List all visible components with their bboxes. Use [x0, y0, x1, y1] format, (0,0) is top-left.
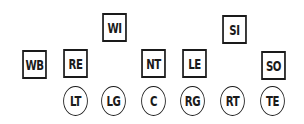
- offense-c: C: [141, 86, 166, 116]
- offense-te-label: TE: [266, 94, 279, 108]
- defender-wi-label: WI: [107, 21, 121, 35]
- offense-lt-label: LT: [70, 94, 81, 108]
- defender-si-label: SI: [229, 23, 239, 37]
- defender-le: LE: [182, 49, 207, 78]
- offense-lt: LT: [63, 86, 88, 116]
- offense-rg: RG: [180, 86, 205, 116]
- defender-re: RE: [63, 49, 88, 78]
- defender-nt: NT: [141, 49, 166, 78]
- defender-nt-label: NT: [146, 57, 161, 71]
- defender-so: SO: [261, 51, 286, 80]
- defender-wb-label: WB: [25, 58, 43, 72]
- offense-lg: LG: [101, 86, 126, 116]
- defender-wb: WB: [22, 50, 47, 79]
- defender-wi: WI: [102, 13, 127, 42]
- defender-so-label: SO: [266, 59, 281, 73]
- offense-rg-label: RG: [185, 94, 200, 108]
- offense-lg-label: LG: [106, 94, 120, 108]
- defender-le-label: LE: [188, 57, 201, 71]
- offense-c-label: C: [150, 94, 157, 108]
- offense-rt: RT: [220, 86, 245, 116]
- offense-rt-label: RT: [226, 94, 240, 108]
- offense-te: TE: [260, 86, 285, 116]
- defender-re-label: RE: [69, 57, 83, 71]
- football-formation-diagram: WB RE WI NT LE SI SO LT LG C RG RT TE: [0, 0, 304, 124]
- defender-si: SI: [222, 15, 247, 44]
